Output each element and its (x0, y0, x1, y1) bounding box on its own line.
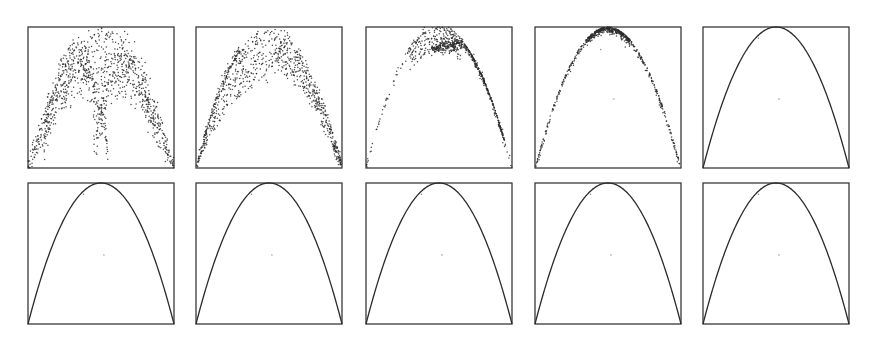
data-point (607, 28, 609, 30)
data-point (144, 77, 146, 79)
data-point (275, 58, 277, 60)
data-point (232, 73, 234, 75)
data-point (217, 104, 219, 106)
data-point (265, 61, 267, 63)
data-point (501, 130, 503, 132)
data-point (230, 94, 232, 96)
data-point (625, 35, 627, 37)
data-point (297, 54, 299, 56)
data-point (409, 55, 411, 57)
data-point (625, 42, 627, 44)
data-point (134, 94, 136, 96)
data-point (37, 135, 39, 137)
data-point (447, 48, 449, 50)
data-point (97, 105, 99, 107)
data-point (101, 112, 103, 114)
data-point (456, 49, 458, 51)
data-point (316, 108, 318, 110)
data-point (297, 60, 299, 62)
data-point (335, 150, 337, 152)
data-point (135, 103, 137, 105)
data-point (239, 84, 241, 86)
panel-8 (366, 183, 512, 324)
data-point (107, 66, 109, 68)
data-point (124, 53, 126, 55)
data-point (504, 144, 506, 146)
data-point (299, 53, 301, 55)
data-point (662, 108, 664, 110)
data-point (105, 35, 107, 37)
data-point (268, 66, 270, 68)
data-point (425, 33, 427, 35)
data-point (455, 51, 457, 53)
data-point (278, 50, 280, 52)
data-point (284, 40, 286, 42)
data-point (119, 92, 121, 94)
data-point (244, 74, 246, 76)
data-point (227, 105, 229, 107)
data-point (314, 101, 316, 103)
data-point (228, 87, 230, 89)
data-point (418, 41, 420, 43)
data-point (149, 119, 151, 121)
data-point (502, 134, 504, 136)
data-point (143, 107, 145, 109)
data-point (234, 60, 236, 62)
data-point (218, 91, 220, 93)
data-point (218, 109, 220, 111)
data-point (332, 132, 334, 134)
data-point (83, 41, 85, 43)
data-point (544, 140, 546, 142)
data-point (319, 109, 321, 111)
data-point (499, 123, 501, 125)
data-point (446, 41, 448, 43)
data-point (214, 106, 216, 108)
data-point (409, 69, 411, 71)
data-point (600, 32, 602, 34)
data-point (316, 101, 318, 103)
data-point (147, 107, 149, 109)
data-point (543, 143, 545, 145)
data-point (254, 37, 256, 39)
data-point (153, 112, 155, 114)
data-point (199, 149, 201, 151)
data-point (272, 65, 274, 67)
data-point (651, 80, 653, 82)
data-point (83, 82, 85, 84)
data-point (277, 53, 279, 55)
data-point (338, 156, 340, 158)
data-point (157, 123, 159, 125)
data-point (119, 58, 121, 60)
data-point (579, 52, 581, 54)
data-point (224, 89, 226, 91)
data-point (289, 40, 291, 42)
data-point (314, 92, 316, 94)
data-point (69, 73, 71, 75)
data-point (266, 70, 268, 72)
data-point (97, 130, 99, 132)
data-point (46, 120, 48, 122)
data-point (307, 67, 309, 69)
data-point (580, 50, 582, 52)
data-point (98, 92, 100, 94)
data-point (299, 76, 301, 78)
data-point (124, 31, 126, 33)
data-point (140, 93, 142, 95)
data-point (265, 45, 267, 47)
data-point (267, 82, 269, 84)
data-point (106, 96, 108, 98)
data-point (458, 35, 460, 37)
data-point (487, 88, 489, 90)
data-point (69, 45, 71, 47)
data-point (107, 95, 109, 97)
data-point (110, 33, 112, 35)
data-point (48, 93, 50, 95)
data-point (494, 112, 496, 114)
data-point (104, 70, 106, 72)
data-point (141, 92, 143, 94)
data-point (263, 40, 265, 42)
data-point (676, 154, 678, 156)
data-point (278, 59, 280, 61)
data-point (50, 114, 52, 116)
data-point (308, 74, 310, 76)
